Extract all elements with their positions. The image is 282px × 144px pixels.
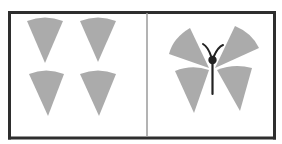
figure-svg: [0, 0, 282, 144]
puzzle-figure: [0, 0, 282, 144]
